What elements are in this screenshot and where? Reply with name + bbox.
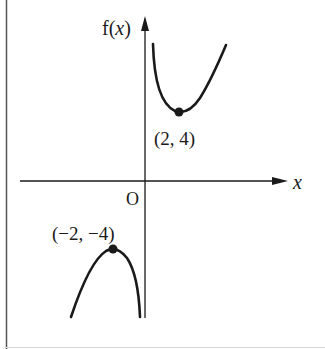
y-axis-label: f(x) bbox=[102, 17, 131, 40]
point-local-maximum bbox=[109, 245, 118, 254]
x-axis-arrow-icon bbox=[272, 177, 288, 185]
x-axis bbox=[20, 177, 288, 185]
point-label-minimum: (2, 4) bbox=[154, 128, 195, 150]
curve-left-branch bbox=[71, 249, 140, 317]
y-axis bbox=[141, 16, 149, 318]
point-local-minimum bbox=[175, 108, 184, 117]
curve-right-branch bbox=[153, 44, 226, 112]
point-label-maximum: (−2, −4) bbox=[52, 223, 115, 245]
x-axis-label: x bbox=[292, 171, 302, 193]
function-graph: f(x) x O (2, 4) (−2, −4) bbox=[0, 0, 325, 349]
origin-label: O bbox=[126, 189, 139, 209]
y-axis-arrow-icon bbox=[141, 16, 149, 31]
